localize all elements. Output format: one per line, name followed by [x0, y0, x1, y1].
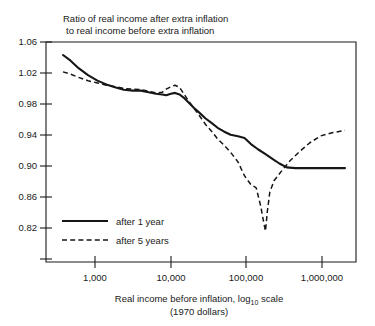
y-tick-label-4: 0.94 [19, 129, 38, 140]
chart-svg: Ratio of real income after extra inflati… [0, 0, 375, 326]
y-tick-label-2: 1.02 [19, 67, 38, 78]
x-axis-title-part2: scale [258, 293, 283, 304]
x-tick-label-4: 1,000,000 [301, 272, 343, 283]
series-after-5-years [63, 72, 345, 231]
x-tick-label-3: 100,000 [229, 272, 263, 283]
chart-figure: Ratio of real income after extra inflati… [0, 0, 375, 326]
chart-title-line2: to real income before extra inflation [66, 25, 214, 36]
x-axis-title: Real income before inflation, log10 scal… [115, 293, 283, 306]
x-tick-label-2: 10,000 [156, 272, 185, 283]
y-tick-label-1: 1.06 [19, 36, 38, 47]
y-tick-label-6: 0.86 [19, 191, 38, 202]
x-tick-label-1: 1,000 [83, 272, 107, 283]
legend-label-after-5-years: after 5 years [116, 235, 169, 246]
plot-frame [46, 42, 356, 262]
chart-legend: after 1 year after 5 years [62, 216, 169, 246]
legend-label-after-1-year: after 1 year [116, 216, 164, 227]
y-tick-label-7: 0.82 [19, 222, 38, 233]
y-tick-label-3: 0.98 [19, 98, 38, 109]
x-axis-title-part1: Real income before inflation, log [115, 293, 251, 304]
chart-title-line1: Ratio of real income after extra inflati… [63, 13, 228, 24]
x-axis-title-subscript: 10 [251, 299, 259, 306]
x-axis-title-line2: (1970 dollars) [170, 306, 228, 317]
series-after-1-year [63, 55, 345, 168]
y-tick-label-5: 0.90 [19, 160, 38, 171]
